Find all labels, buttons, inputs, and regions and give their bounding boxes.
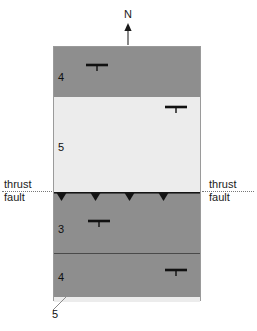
- rock-unit-band-4-north: [54, 47, 200, 97]
- unit-label-3: 3: [58, 223, 64, 235]
- thrust-fault-label-left-line2: fault: [4, 191, 50, 204]
- geologic-map-diagram: N 4 5 3 4: [0, 0, 257, 331]
- strike-dip-symbol-1: [85, 63, 111, 75]
- strike-dip-symbol-2: [164, 105, 190, 117]
- north-arrow-icon: [118, 22, 138, 46]
- map-block: 4 5 3 4: [53, 46, 201, 301]
- unit-label-4-north: 4: [58, 71, 64, 83]
- thrust-fault-teeth-icon: [54, 192, 202, 204]
- unit-label-4-south: 4: [58, 271, 64, 283]
- unit-label-5-bottom: 5: [52, 308, 58, 320]
- thrust-fault-label-right: thrust fault: [209, 178, 257, 204]
- strike-dip-symbol-3: [87, 219, 113, 231]
- thrust-fault-label-left: thrust fault: [4, 178, 50, 204]
- thrust-fault-label-right-line2: fault: [209, 191, 257, 204]
- unit-label-5-north: 5: [58, 141, 64, 153]
- north-label: N: [118, 8, 138, 20]
- rock-unit-band-5-south: [54, 297, 200, 302]
- strike-dip-symbol-4: [164, 268, 190, 280]
- thrust-fault-label-left-line1: thrust: [4, 178, 50, 191]
- thrust-fault-label-right-line1: thrust: [209, 178, 257, 191]
